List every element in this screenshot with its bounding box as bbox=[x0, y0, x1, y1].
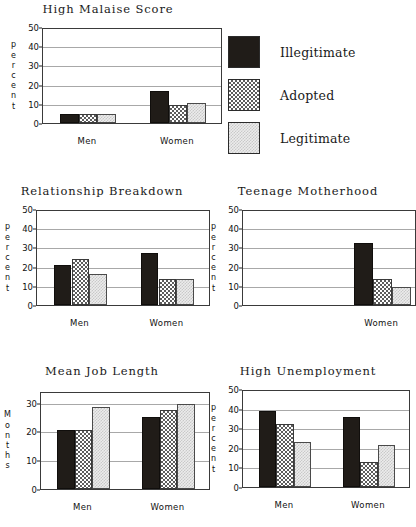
y-axis-label-letter: e bbox=[2, 263, 13, 273]
bar bbox=[150, 91, 169, 123]
bar bbox=[378, 445, 395, 487]
y-axis-ticks: 0102030 bbox=[18, 392, 40, 490]
bars-container bbox=[37, 211, 209, 305]
chart-body: percent01020304050MenWomen bbox=[8, 22, 208, 152]
y-axis-ticks: 01020304050 bbox=[14, 210, 36, 306]
y-axis-label: percent bbox=[2, 222, 13, 293]
chart-body: Months0102030MenWomen bbox=[2, 384, 202, 514]
x-axis-label: Men bbox=[73, 502, 92, 512]
y-axis-label-letter: p bbox=[8, 40, 19, 50]
y-axis-label-letter: r bbox=[208, 243, 219, 253]
chart-panel-mean-job-length: Mean Job Length Months0102030MenWomen bbox=[2, 364, 202, 514]
y-axis-tick-label: 20 bbox=[28, 81, 39, 91]
plot-area: 01020304050 bbox=[14, 210, 210, 306]
y-axis-label-letter: e bbox=[208, 414, 219, 424]
chart-panel-relationship-breakdown: Relationship Breakdown percent0102030405… bbox=[2, 184, 202, 334]
y-axis-tick-label: 50 bbox=[28, 23, 39, 33]
y-axis-label-letter: t bbox=[208, 284, 219, 294]
y-axis-label-letter: n bbox=[208, 273, 219, 283]
y-axis-label-letter: n bbox=[8, 91, 19, 101]
bar bbox=[360, 462, 377, 487]
x-axis-label: Men bbox=[274, 500, 293, 510]
bar bbox=[169, 105, 188, 123]
y-axis-label-letter: e bbox=[208, 263, 219, 273]
y-axis-label-letter: t bbox=[2, 284, 13, 294]
plot-area: 01020304050 bbox=[220, 390, 410, 488]
bar bbox=[89, 274, 107, 305]
plot-area: 01020304050 bbox=[20, 28, 222, 124]
bar bbox=[276, 424, 293, 487]
bar bbox=[60, 114, 79, 123]
bar bbox=[159, 279, 177, 305]
y-axis-label-letter: e bbox=[8, 81, 19, 91]
y-axis-label-letter: r bbox=[8, 61, 19, 71]
x-axis-label: Women bbox=[160, 136, 194, 146]
y-axis-label-letter: M bbox=[2, 410, 13, 420]
y-axis-tick-label: 50 bbox=[228, 205, 239, 215]
y-axis-label-letter: h bbox=[2, 451, 13, 461]
y-axis-tick-label: 20 bbox=[22, 263, 33, 273]
bar bbox=[354, 243, 373, 305]
y-axis-tick-label: 10 bbox=[26, 456, 37, 466]
legend-label: Adopted bbox=[280, 88, 334, 103]
x-axis-label: Women bbox=[364, 318, 398, 328]
y-axis-tick-label: 30 bbox=[28, 61, 39, 71]
plot-area: 01020304050 bbox=[220, 210, 416, 306]
y-axis-label-letter: o bbox=[2, 421, 13, 431]
y-axis-tick-label: 20 bbox=[228, 263, 239, 273]
legend-item-adopted: Adopted bbox=[228, 79, 334, 111]
y-axis-label-letter: n bbox=[2, 431, 13, 441]
y-axis-label-letter: e bbox=[208, 444, 219, 454]
y-axis-label-letter: t bbox=[208, 465, 219, 475]
y-axis-label-letter: e bbox=[2, 233, 13, 243]
plot-frame bbox=[42, 28, 222, 124]
chart-body: percent01020304050Women bbox=[208, 204, 408, 334]
y-axis-tick-label: 40 bbox=[228, 224, 239, 234]
y-axis-label-letter: t bbox=[2, 441, 13, 451]
bar bbox=[92, 407, 110, 489]
y-axis-label-letter: n bbox=[208, 454, 219, 464]
y-axis-ticks: 01020304050 bbox=[220, 390, 242, 488]
y-axis-tick-label: 10 bbox=[228, 282, 239, 292]
y-axis-label-letter: c bbox=[208, 434, 219, 444]
y-axis-label-letter: n bbox=[2, 273, 13, 283]
bar bbox=[72, 259, 90, 305]
bar bbox=[176, 279, 194, 305]
chart-title: Mean Job Length bbox=[2, 364, 202, 378]
x-axis-label: Women bbox=[150, 502, 184, 512]
y-axis-tick-label: 20 bbox=[26, 427, 37, 437]
y-axis-label-letter: r bbox=[208, 424, 219, 434]
plot-frame bbox=[242, 210, 416, 306]
y-axis-tick-label: 20 bbox=[228, 444, 239, 454]
bar bbox=[57, 430, 75, 489]
y-axis-tick-label: 50 bbox=[228, 385, 239, 395]
y-axis-label-letter: e bbox=[8, 51, 19, 61]
y-axis-tick-label: 40 bbox=[22, 224, 33, 234]
y-axis-tick-label: 40 bbox=[28, 42, 39, 52]
chart-title: Relationship Breakdown bbox=[2, 184, 202, 198]
y-axis-tick-label: 10 bbox=[228, 463, 239, 473]
y-axis-tick-label: 30 bbox=[228, 243, 239, 253]
y-axis-label-letter: c bbox=[2, 253, 13, 263]
y-axis-tick-label: 10 bbox=[22, 282, 33, 292]
y-axis-label-letter: c bbox=[8, 71, 19, 81]
y-axis-tick-label: 40 bbox=[228, 405, 239, 415]
x-axis-label: Men bbox=[70, 318, 89, 328]
y-axis-tick-label: 30 bbox=[228, 424, 239, 434]
chart-panel-high-unemployment: High Unemployment percent01020304050MenW… bbox=[208, 364, 408, 514]
chart-title: High Malaise Score bbox=[8, 2, 208, 16]
y-axis-label-letter: p bbox=[208, 403, 219, 413]
legend-swatch-illegitimate-icon bbox=[228, 36, 260, 68]
chart-title: Teenage Motherhood bbox=[208, 184, 408, 198]
bar bbox=[373, 279, 392, 305]
y-axis-label-letter: p bbox=[2, 222, 13, 232]
y-axis-label-letter: r bbox=[2, 243, 13, 253]
legend-swatch-legitimate-icon bbox=[228, 122, 260, 154]
bars-container bbox=[41, 393, 209, 489]
y-axis-tick-label: 30 bbox=[26, 399, 37, 409]
plot-frame bbox=[36, 210, 210, 306]
bars-container bbox=[43, 29, 221, 123]
y-axis-label-letter: c bbox=[208, 253, 219, 263]
legend-label: Legitimate bbox=[280, 131, 350, 146]
y-axis-label: percent bbox=[208, 403, 219, 474]
